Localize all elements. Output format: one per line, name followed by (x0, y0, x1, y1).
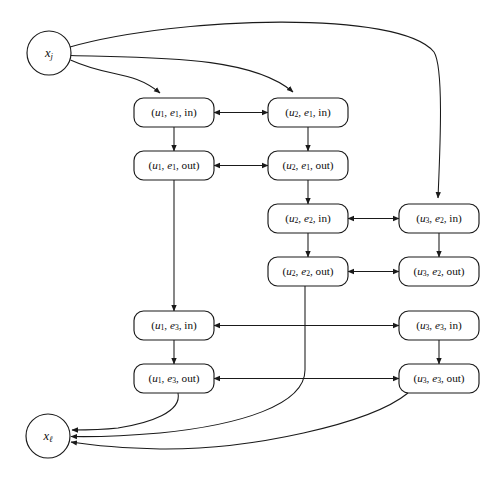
node-u2e1out[interactable]: (u2, e1, out) (268, 151, 348, 180)
edge-layer (70, 22, 441, 449)
node-layer: (u1, e1, in)(u2, e1, in)(u1, e1, out)(u2… (134, 98, 479, 393)
node-label: (u2, e1, in) (285, 106, 331, 120)
node-u2e1in[interactable]: (u2, e1, in) (268, 98, 348, 127)
node-u2e2in[interactable]: (u2, e2, in) (268, 204, 348, 233)
node-label: (u1, e3, in) (151, 319, 197, 333)
node-u3e3out[interactable]: (u3, e3, out) (399, 364, 479, 393)
edge-x_j-to-u1e1in (71, 60, 161, 93)
node-u2e2out[interactable]: (u2, e2, out) (268, 257, 348, 286)
node-u1e1out[interactable]: (u1, e1, out) (134, 151, 214, 180)
node-label: (u3, e3, in) (416, 319, 462, 333)
node-label: (u2, e2, in) (285, 212, 331, 226)
terminal-sink-x_l[interactable]: xℓ (26, 414, 70, 458)
edge-u2e2out-to-x_l (71, 286, 305, 437)
edge-u1e3out-to-x_l (72, 393, 178, 430)
node-label: (u3, e2, in) (416, 212, 462, 226)
terminal-source-x_j[interactable]: xj (27, 31, 71, 75)
node-u3e3in[interactable]: (u3, e3, in) (399, 311, 479, 340)
node-u1e1in[interactable]: (u1, e1, in) (134, 98, 214, 127)
edge-u3e3out-to-x_l (71, 393, 408, 449)
node-u1e3in[interactable]: (u1, e3, in) (134, 311, 214, 340)
node-u1e3out[interactable]: (u1, e3, out) (134, 364, 214, 393)
node-label: (u1, e1, in) (151, 106, 197, 120)
graph-diagram: (u1, e1, in)(u2, e1, in)(u1, e1, out)(u2… (0, 0, 494, 481)
node-u3e2out[interactable]: (u3, e2, out) (399, 257, 479, 286)
edge-x_j-to-u2e1in (71, 56, 294, 93)
graph-canvas: (u1, e1, in)(u2, e1, in)(u1, e1, out)(u2… (0, 0, 494, 481)
terminal-layer: xjxℓ (26, 31, 71, 458)
node-u3e2in[interactable]: (u3, e2, in) (399, 204, 479, 233)
edge-x_j-to-u3e2in (70, 22, 441, 198)
